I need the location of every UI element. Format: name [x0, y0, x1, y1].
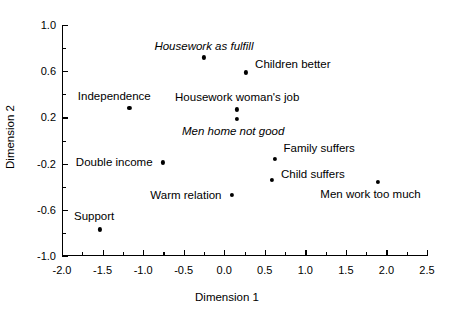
x-axis-tick-label: 0.5 [257, 265, 272, 276]
x-axis-tick-label: 2.0 [379, 265, 394, 276]
y-axis-minor-tick [62, 48, 66, 49]
x-axis-tick [184, 250, 185, 256]
data-point-label: Housework woman's job [175, 91, 299, 103]
y-axis-tick-label: 1.0 [18, 20, 56, 31]
x-axis-tick [224, 250, 225, 256]
data-point-label: Men home not good [182, 125, 284, 137]
x-axis-tick-label: 2.5 [419, 265, 434, 276]
x-axis-tick [427, 250, 428, 256]
y-axis-tick-label: -1.0 [18, 251, 56, 262]
x-axis-minor-tick [204, 252, 205, 256]
x-axis-tick [103, 250, 104, 256]
y-axis-tick-label: 0.2 [18, 112, 56, 123]
x-axis-tick-label: -1.5 [93, 265, 112, 276]
x-axis-tick [346, 250, 347, 256]
x-axis-tick-label: 0.0 [217, 265, 232, 276]
y-axis-tick [62, 164, 68, 165]
data-point-label: Warm relation [150, 189, 221, 201]
x-axis-minor-tick [366, 252, 367, 256]
x-axis-tick-label: -0.5 [174, 265, 193, 276]
x-axis-tick [305, 250, 306, 256]
x-axis-tick-label: 1.0 [298, 265, 313, 276]
x-axis-title: Dimension 1 [0, 291, 454, 303]
data-point-label: Double income [76, 156, 153, 168]
x-axis-minor-tick [82, 252, 83, 256]
y-axis-tick [62, 71, 68, 72]
plot-area [62, 25, 427, 256]
data-point-label: Independence [78, 90, 151, 102]
y-axis-tick [62, 117, 68, 118]
x-axis-tick-label: -2.0 [53, 265, 72, 276]
x-axis-minor-tick [123, 252, 124, 256]
x-axis-tick [265, 250, 266, 256]
y-axis-title: Dimension 2 [4, 87, 16, 187]
y-axis-minor-tick [62, 94, 66, 95]
data-point-label: Family suffers [284, 142, 355, 154]
y-axis-tick-label: 0.6 [18, 66, 56, 77]
y-axis-tick-label: -0.2 [18, 158, 56, 169]
x-axis-tick-label: 1.5 [338, 265, 353, 276]
data-point-label: Support [74, 210, 114, 222]
x-axis-minor-tick [326, 252, 327, 256]
y-axis-minor-tick [62, 187, 66, 188]
x-axis-minor-tick [285, 252, 286, 256]
scatter-plot-figure: Dimension 1 Dimension 2 -2.0-1.5-1.0-0.5… [0, 0, 454, 317]
x-axis-minor-tick [407, 252, 408, 256]
y-axis-tick [62, 210, 68, 211]
y-axis-tick [62, 25, 68, 26]
data-point-label: Child suffers [281, 168, 345, 180]
x-axis-tick [143, 250, 144, 256]
data-point-label: Men work too much [320, 188, 420, 200]
x-axis-tick [386, 250, 387, 256]
x-axis-minor-tick [163, 252, 164, 256]
data-point-label: Children better [255, 58, 330, 70]
x-axis-minor-tick [245, 252, 246, 256]
x-axis-tick-label: -1.0 [134, 265, 153, 276]
y-axis-tick [62, 256, 68, 257]
y-axis-minor-tick [62, 141, 66, 142]
y-axis-tick-label: -0.6 [18, 204, 56, 215]
y-axis-minor-tick [62, 233, 66, 234]
data-point-label: Housework as fulfill [154, 40, 253, 52]
